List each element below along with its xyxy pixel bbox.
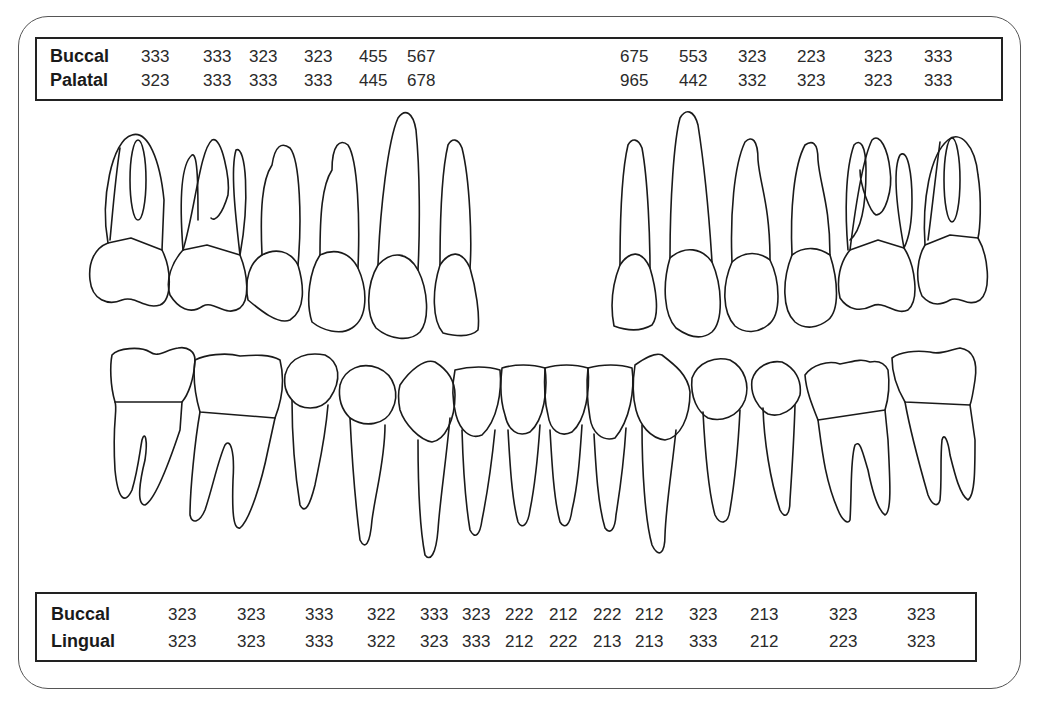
lower-buccal-value: 333 (420, 605, 448, 625)
lower-buccal-value: 333 (305, 605, 333, 625)
lower-incisor-3 (544, 365, 588, 526)
lower-left-molar-2 (111, 348, 195, 505)
lower-right-molar-1 (805, 360, 890, 522)
lower-buccal-value: 212 (549, 605, 577, 625)
lower-lingual-value: 333 (305, 632, 333, 652)
lower-left-molar-1 (190, 354, 282, 528)
lower-incisor-1 (453, 367, 501, 535)
lower-lingual-value: 212 (750, 632, 778, 652)
upper-right-premolar-1 (725, 139, 778, 332)
lower-lingual-value: 323 (907, 632, 935, 652)
upper-left-premolar-1 (309, 142, 365, 331)
upper-right-molar-1 (918, 137, 988, 304)
lower-lingual-value: 212 (505, 632, 533, 652)
lower-buccal-value: 322 (367, 605, 395, 625)
lower-buccal-value: 323 (462, 605, 490, 625)
lower-lingual-label: Lingual (51, 631, 115, 652)
lower-buccal-value: 323 (237, 605, 265, 625)
upper-right-molar-2 (838, 138, 914, 311)
lower-buccal-value: 323 (907, 605, 935, 625)
lower-lingual-value: 223 (829, 632, 857, 652)
upper-left-molar-1 (90, 134, 170, 306)
lower-buccal-value: 323 (689, 605, 717, 625)
lower-buccal-value: 213 (750, 605, 778, 625)
lower-left-premolar-1 (339, 366, 395, 545)
upper-right-premolar-2 (785, 143, 837, 327)
upper-right-canine (665, 112, 720, 337)
lower-lingual-value: 222 (549, 632, 577, 652)
lower-lingual-value: 213 (635, 632, 663, 652)
lower-left-premolar-2 (285, 354, 338, 509)
lower-lingual-value: 323 (168, 632, 196, 652)
lower-buccal-value: 222 (593, 605, 621, 625)
lower-buccal-value: 222 (505, 605, 533, 625)
lower-lingual-value: 333 (462, 632, 490, 652)
lower-incisor-4 (587, 365, 633, 531)
lower-buccal-label: Buccal (51, 604, 110, 625)
lower-right-molar-2 (892, 348, 976, 505)
lower-right-premolar-1 (692, 359, 747, 522)
lower-buccal-value: 323 (168, 605, 196, 625)
lower-buccal-value: 212 (635, 605, 663, 625)
lower-lingual-value: 333 (689, 632, 717, 652)
upper-left-lateral-incisor (434, 140, 478, 336)
lower-incisor-2 (501, 365, 546, 526)
lower-lingual-value: 323 (420, 632, 448, 652)
upper-left-canine (369, 113, 427, 339)
lower-buccal-value: 323 (829, 605, 857, 625)
upper-left-molar-2 (168, 140, 246, 311)
upper-right-lateral-incisor (612, 140, 656, 330)
lower-lingual-value: 323 (237, 632, 265, 652)
lower-right-premolar-2 (752, 362, 801, 516)
upper-left-premolar-2 (247, 145, 303, 321)
lower-left-canine (399, 361, 456, 557)
lower-right-canine (633, 354, 690, 553)
lower-pocket-depth-table: Buccal Lingual 323 323 333 322 333 323 2… (35, 592, 977, 662)
lower-lingual-value: 322 (367, 632, 395, 652)
lower-lingual-value: 213 (593, 632, 621, 652)
